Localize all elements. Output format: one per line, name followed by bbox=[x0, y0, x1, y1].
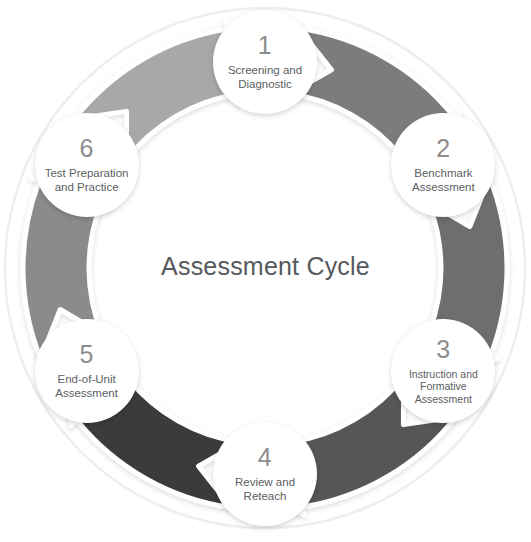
cycle-node-number-4: 4 bbox=[258, 445, 272, 470]
assessment-cycle-diagram: Assessment Cycle 1Screening andDiagnosti… bbox=[0, 0, 531, 542]
cycle-node-6[interactable]: 6Test Preparationand Practice bbox=[35, 113, 139, 217]
cycle-node-number-5: 5 bbox=[79, 342, 93, 367]
cycle-node-number-3: 3 bbox=[436, 337, 450, 362]
cycle-node-3[interactable]: 3Instruction andFormativeAssessment bbox=[391, 319, 495, 423]
cycle-node-label-2: BenchmarkAssessment bbox=[406, 167, 481, 194]
cycle-node-2[interactable]: 2BenchmarkAssessment bbox=[391, 113, 495, 217]
cycle-node-number-2: 2 bbox=[436, 136, 450, 161]
diagram-center-title: Assessment Cycle bbox=[0, 252, 531, 281]
cycle-node-5[interactable]: 5End-of-UnitAssessment bbox=[35, 319, 139, 423]
cycle-node-label-3: Instruction andFormativeAssessment bbox=[403, 368, 484, 405]
cycle-node-label-5: End-of-UnitAssessment bbox=[49, 373, 124, 400]
cycle-node-number-6: 6 bbox=[79, 136, 93, 161]
cycle-node-number-1: 1 bbox=[258, 33, 272, 58]
cycle-node-1[interactable]: 1Screening andDiagnostic bbox=[213, 10, 317, 114]
cycle-node-label-1: Screening andDiagnostic bbox=[222, 64, 308, 91]
cycle-node-label-6: Test Preparationand Practice bbox=[39, 167, 135, 194]
cycle-node-label-4: Review andReteach bbox=[229, 476, 301, 503]
cycle-node-4[interactable]: 4Review andReteach bbox=[213, 422, 317, 526]
